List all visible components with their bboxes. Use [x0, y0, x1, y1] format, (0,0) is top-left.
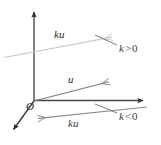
leader-lines	[95, 35, 117, 113]
label-condition-k-positive-relation: >	[124, 42, 132, 54]
label-condition-k-negative: k<0	[119, 111, 138, 122]
vector-ku-positive-shaft	[4, 37, 112, 57]
label-origin: O	[26, 101, 34, 112]
label-ku-positive: ku	[54, 29, 65, 40]
label-condition-k-positive: k>0	[119, 43, 138, 54]
label-ku-negative: ku	[68, 118, 79, 129]
vector-ku-positive	[4, 37, 112, 57]
label-vector-u: u	[68, 74, 74, 85]
label-condition-k-positive-value: 0	[132, 42, 138, 54]
label-condition-k-negative-value: 0	[132, 110, 138, 122]
axes-diagram-canvas	[0, 0, 161, 145]
vector-scaling-figure: ku u O ku k>0 k<0	[0, 0, 161, 145]
label-condition-k-negative-relation: <	[124, 110, 132, 122]
